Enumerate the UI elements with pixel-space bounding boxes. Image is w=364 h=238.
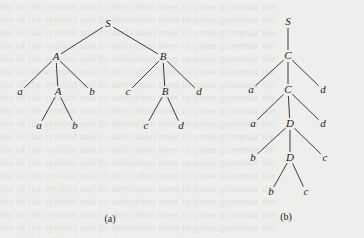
parse-tree-b: SCaCdaDdbDcbc [248, 15, 327, 197]
tree-node-a: a [17, 85, 23, 97]
tree-node-A: A [54, 85, 62, 97]
tree-edge [61, 97, 73, 120]
tree-node-S: S [105, 17, 111, 29]
tree-node-b: b [72, 119, 78, 131]
tree-node-a: a [248, 83, 254, 95]
tree-node-c: c [144, 119, 149, 131]
tree-node-B: B [160, 50, 167, 62]
tree-edge [257, 128, 285, 154]
tree-node-a: a [36, 119, 42, 131]
tree-node-d: d [196, 85, 202, 97]
tree-edge [292, 94, 318, 120]
tree-edge [288, 96, 289, 118]
tree-node-c: c [126, 85, 131, 97]
tree-node-C: C [284, 49, 292, 61]
tree-edge [149, 97, 162, 121]
tree-edge [168, 97, 179, 120]
tree-node-A: A [52, 50, 60, 62]
caption-b: (b) [280, 211, 292, 222]
tree-node-d: d [320, 83, 326, 95]
tree-node-D: D [285, 151, 294, 163]
tree-edge [292, 60, 318, 86]
tree-edge [56, 63, 57, 86]
tree-node-b: b [268, 185, 274, 197]
tree-edge [24, 61, 51, 88]
parse-tree-figure: SABaAbcBdabcd SCaCdaDdbDcbc [0, 0, 364, 238]
tree-edge [294, 128, 320, 154]
caption-a: (a) [104, 213, 115, 224]
tree-node-D: D [285, 117, 294, 129]
tree-node-B: B [162, 85, 169, 97]
tree-edge [257, 94, 283, 120]
tree-edge [293, 163, 304, 186]
tree-node-c: c [304, 185, 309, 197]
tree-node-b: b [89, 85, 95, 97]
tree-node-b: b [250, 151, 256, 163]
tree-node-S: S [285, 15, 291, 27]
tree-edge [163, 63, 164, 86]
parse-tree-a: SABaAbcBdabcd [17, 17, 202, 131]
tree-edge [42, 97, 55, 121]
tree-edge [167, 61, 194, 88]
tree-node-a: a [250, 117, 256, 129]
tree-edge [61, 27, 103, 54]
tree-node-c: c [323, 151, 328, 163]
tree-node-d: d [320, 117, 326, 129]
tree-edge [255, 60, 283, 86]
tree-edge [113, 27, 158, 54]
tree-node-C: C [284, 83, 292, 95]
tree-edge [60, 61, 87, 88]
tree-node-d: d [178, 119, 184, 131]
tree-edge [274, 163, 287, 187]
tree-edge [132, 61, 159, 88]
